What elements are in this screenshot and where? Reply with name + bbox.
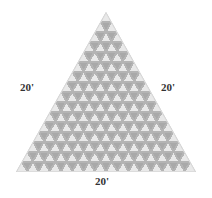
triangle-tiling-svg [0,0,212,198]
dimension-label-base: 20' [95,176,109,187]
dimension-label-left: 20' [20,82,34,93]
triangle-diagram: 20' 20' 20' [0,0,212,198]
dimension-label-right: 20' [161,82,175,93]
